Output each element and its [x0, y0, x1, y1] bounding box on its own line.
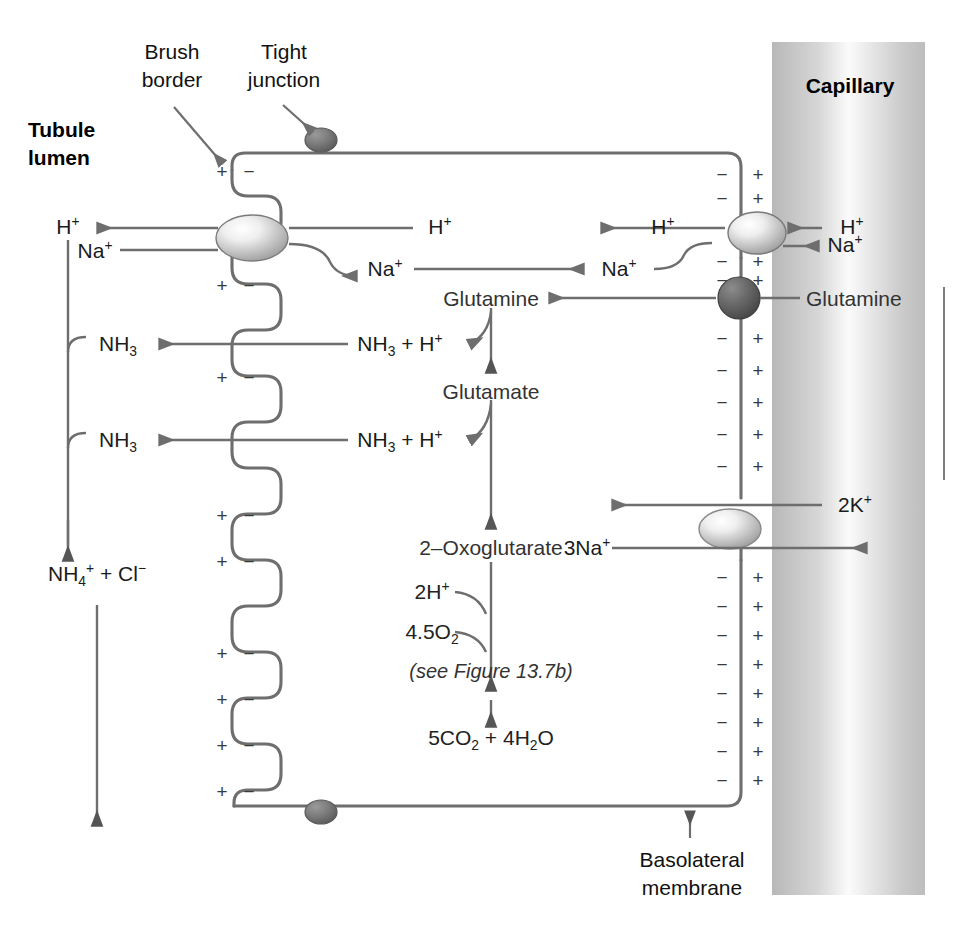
label-2k: 2K+ — [838, 493, 872, 517]
charge-minus-apical-8: − — [243, 735, 254, 757]
charge-plus-baso-16: + — [752, 741, 763, 763]
label-h-cell-mid: H+ — [428, 215, 451, 239]
charge-minus-baso-9: − — [716, 456, 727, 478]
label-tight-junction-line1: Tight — [261, 40, 307, 64]
charge-plus-baso-7: + — [752, 392, 763, 414]
charge-plus-baso-1: + — [752, 164, 763, 186]
label-nh3-upper: NH3 — [99, 332, 137, 356]
charge-minus-baso-15: − — [716, 712, 727, 734]
hook-nh3-upper — [68, 337, 86, 352]
arrow-na-right-curve — [654, 243, 712, 269]
label-glutamate: Glutamate — [443, 380, 540, 404]
charge-minus-apical-7: − — [243, 689, 254, 711]
charge-plus-baso-13: + — [752, 654, 763, 676]
label-basolateral-line1: Basolateral — [639, 848, 744, 872]
label-see-figure: (see Figure 13.7b) — [409, 660, 572, 682]
charge-plus-baso-17: + — [752, 770, 763, 792]
diagram-vector-layer — [0, 0, 957, 925]
charge-minus-apical-2: − — [243, 275, 254, 297]
charge-plus-apical-4: + — [216, 505, 227, 527]
leader-brush-border — [174, 107, 222, 163]
label-tight-junction-line2: junction — [248, 68, 320, 92]
leader-tight-junction — [283, 105, 312, 131]
hook-nh3-lower — [68, 433, 86, 448]
charge-minus-baso-11: − — [716, 596, 727, 618]
figure-canvas: Brush border Tight junction Tubule lumen… — [0, 0, 957, 925]
charge-plus-baso-14: + — [752, 683, 763, 705]
label-tubule-lumen-line2: lumen — [28, 146, 90, 170]
charge-minus-baso-6: − — [716, 360, 727, 382]
arrow-nh3-release-lower — [470, 404, 491, 440]
label-nh3-lower: NH3 — [99, 428, 137, 452]
charge-plus-baso-10: + — [752, 567, 763, 589]
label-capillary: Capillary — [806, 74, 895, 98]
charge-plus-apical-8: + — [216, 735, 227, 757]
charge-minus-baso-17: − — [716, 770, 727, 792]
label-glutamine-blood: Glutamine — [806, 287, 902, 311]
charge-minus-baso-5: − — [716, 328, 727, 350]
charge-plus-apical-2: + — [216, 275, 227, 297]
label-glutamine-cell: Glutamine — [443, 287, 539, 311]
charge-plus-baso-12: + — [752, 625, 763, 647]
label-tubule-lumen-line1: Tubule — [28, 118, 95, 142]
label-3na: 3Na+ — [564, 536, 611, 560]
charge-plus-baso-4: + — [752, 270, 763, 292]
charge-minus-baso-1: − — [716, 164, 727, 186]
arrow-na-apical-curve — [289, 244, 356, 276]
charge-minus-baso-8: − — [716, 424, 727, 446]
charge-minus-apical-4: − — [243, 505, 254, 527]
charge-minus-apical-9: − — [243, 781, 254, 803]
arrow-nh3-release-upper — [470, 312, 491, 344]
label-na-cell-right: Na+ — [602, 257, 637, 281]
label-oxoglutarate: 2–Oxoglutarate — [419, 536, 563, 560]
charge-minus-apical-6: − — [243, 643, 254, 665]
label-na-cell-mid: Na+ — [368, 257, 403, 281]
charge-plus-apical-1: + — [216, 161, 227, 183]
charge-minus-apical-3: − — [243, 367, 254, 389]
label-nh3-h-lower: NH3 + H+ — [357, 428, 442, 452]
charge-plus-baso-2: + — [752, 188, 763, 210]
label-h-lumen: H+ — [56, 215, 79, 239]
charge-minus-baso-10: − — [716, 567, 727, 589]
charge-minus-baso-2: − — [716, 188, 727, 210]
label-brush-border-line1: Brush — [145, 40, 200, 64]
charge-plus-apical-5: + — [216, 551, 227, 573]
charge-plus-baso-9: + — [752, 456, 763, 478]
label-na-lumen: Na+ — [78, 239, 113, 263]
charge-plus-baso-5: + — [752, 328, 763, 350]
na-h-exchanger-apical — [216, 215, 288, 261]
charge-minus-baso-16: − — [716, 741, 727, 763]
label-brush-border-line2: border — [142, 68, 203, 92]
capillary-band — [772, 42, 925, 895]
charge-minus-baso-13: − — [716, 654, 727, 676]
tight-junction-top — [305, 128, 337, 152]
charge-minus-apical-1: − — [243, 161, 254, 183]
charge-plus-baso-6: + — [752, 360, 763, 382]
arrow-2h-in — [455, 592, 486, 614]
charge-minus-baso-4: − — [716, 270, 727, 292]
label-nh4-cl: NH4+ + Cl− — [48, 562, 146, 586]
charge-minus-baso-7: − — [716, 392, 727, 414]
label-o2: 4.5O2 — [405, 620, 458, 644]
label-basolateral-line2: membrane — [642, 876, 742, 900]
charge-minus-baso-14: − — [716, 683, 727, 705]
charge-plus-apical-7: + — [216, 689, 227, 711]
tight-junction-bottom — [305, 800, 337, 824]
arrow-o2-in — [455, 632, 486, 652]
na-k-atpase — [699, 509, 761, 549]
label-nh3-h-upper: NH3 + H+ — [357, 332, 442, 356]
na-h-exchanger-basolateral — [728, 212, 786, 254]
charge-plus-baso-11: + — [752, 596, 763, 618]
label-na-capillary: Na+ — [828, 233, 863, 257]
cell-outline — [232, 153, 741, 806]
label-h-cell-right: H+ — [651, 215, 674, 239]
charge-plus-baso-8: + — [752, 424, 763, 446]
label-2h: 2H+ — [415, 580, 450, 604]
charge-plus-apical-6: + — [216, 643, 227, 665]
charge-plus-apical-9: + — [216, 781, 227, 803]
charge-plus-apical-3: + — [216, 367, 227, 389]
charge-minus-apical-5: − — [243, 551, 254, 573]
label-products: 5CO2 + 4H2O — [428, 726, 554, 750]
charge-minus-baso-12: − — [716, 625, 727, 647]
charge-plus-baso-15: + — [752, 712, 763, 734]
